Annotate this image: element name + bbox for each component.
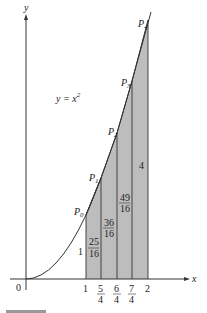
origin-label: 0 <box>16 282 21 293</box>
svg-text:P2: P2 <box>107 126 118 139</box>
svg-text:4: 4 <box>139 160 144 171</box>
svg-text:6: 6 <box>114 283 119 294</box>
svg-text:49: 49 <box>120 192 130 203</box>
svg-text:P1: P1 <box>88 172 99 185</box>
svg-text:25: 25 <box>89 236 99 247</box>
svg-text:16: 16 <box>89 248 99 259</box>
svg-text:36: 36 <box>104 217 114 228</box>
svg-text:16: 16 <box>104 228 114 239</box>
svg-text:P0: P0 <box>73 206 84 219</box>
x-axis-arrow-icon <box>184 277 190 281</box>
svg-text:1: 1 <box>83 283 88 294</box>
figure-riemann-sum: y x 0 y = x2 1 5 4 6 4 7 4 2 P0 P1 P2 P3… <box>0 0 207 313</box>
svg-text:5: 5 <box>98 283 103 294</box>
curve-label: y = x2 <box>55 91 81 104</box>
svg-text:P4: P4 <box>137 18 148 31</box>
svg-text:P3: P3 <box>120 77 131 90</box>
y-axis-arrow-icon <box>24 14 28 20</box>
svg-text:2: 2 <box>145 283 150 294</box>
svg-text:4: 4 <box>129 294 134 305</box>
y-axis-label: y <box>23 2 29 13</box>
svg-text:16: 16 <box>120 203 130 214</box>
svg-text:1: 1 <box>78 246 83 257</box>
x-axis-label: x <box>191 273 197 284</box>
x-tick-labels: 1 5 4 6 4 7 4 2 <box>83 283 150 305</box>
svg-text:7: 7 <box>129 283 134 294</box>
svg-text:4: 4 <box>98 294 103 305</box>
svg-text:4: 4 <box>114 294 119 305</box>
